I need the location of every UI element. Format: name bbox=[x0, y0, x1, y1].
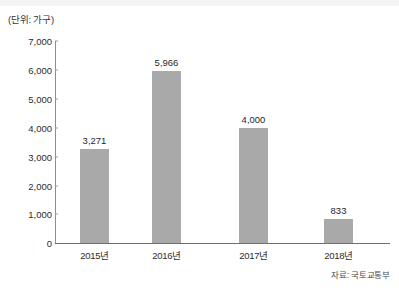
bar-chart-figure: (단위: 가구) 7,000 6,000 5,000 4,000 3,000 2… bbox=[0, 0, 399, 292]
y-tick-mark bbox=[55, 41, 58, 42]
x-tick-label-2015: 2015년 bbox=[80, 248, 109, 262]
bar-2016 bbox=[152, 71, 181, 243]
bar-2018 bbox=[324, 219, 353, 243]
x-tick-label-2017: 2017년 bbox=[239, 248, 268, 262]
x-axis-line bbox=[55, 243, 390, 244]
y-tick-label: 7,000 bbox=[6, 36, 52, 47]
source-note: 자료: 국토교통부 bbox=[331, 268, 390, 280]
y-tick-mark bbox=[55, 70, 58, 71]
y-tick-label: 6,000 bbox=[6, 65, 52, 76]
y-tick-label: 0 bbox=[6, 238, 52, 249]
y-tick-label: 4,000 bbox=[6, 123, 52, 134]
y-tick-mark bbox=[55, 186, 58, 187]
x-tick-label-2018: 2018년 bbox=[324, 248, 353, 262]
plot-area: 7,000 6,000 5,000 4,000 3,000 2,000 1,00… bbox=[0, 0, 399, 292]
bar-2017 bbox=[239, 128, 268, 243]
y-tick-label: 5,000 bbox=[6, 94, 52, 105]
y-tick-label: 3,000 bbox=[6, 152, 52, 163]
bar-value-2015: 3,271 bbox=[83, 135, 107, 146]
y-tick-mark bbox=[55, 157, 58, 158]
bar-2015 bbox=[80, 149, 109, 243]
y-tick-label: 2,000 bbox=[6, 181, 52, 192]
y-tick-mark bbox=[55, 128, 58, 129]
y-tick-mark bbox=[55, 214, 58, 215]
bar-value-2017: 4,000 bbox=[242, 114, 266, 125]
y-tick-mark bbox=[55, 99, 58, 100]
x-tick-label-2016: 2016년 bbox=[152, 248, 181, 262]
bar-value-2018: 833 bbox=[331, 205, 347, 216]
y-tick-label: 1,000 bbox=[6, 209, 52, 220]
bar-value-2016: 5,966 bbox=[155, 57, 179, 68]
